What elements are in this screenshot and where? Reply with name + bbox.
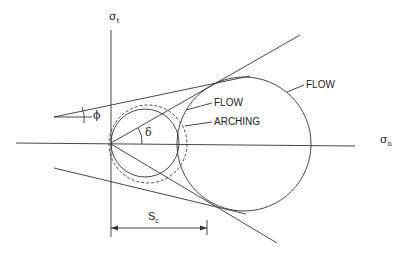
sc-left-arrowhead xyxy=(111,226,118,231)
flow-small-label: FLOW xyxy=(214,98,243,108)
sc-label: Sc xyxy=(148,211,159,222)
sigma-n-label: σn xyxy=(380,134,392,145)
sigma-n-subscript: n xyxy=(388,140,393,148)
arching-leader xyxy=(185,122,212,126)
mohr-diagram xyxy=(0,0,402,253)
sc-subscript: c xyxy=(155,217,159,224)
phi-angle-arc xyxy=(82,107,84,123)
sigma-t-symbol: σ xyxy=(109,10,117,23)
sigma-t-subscript: t xyxy=(117,17,120,25)
sc-right-arrowhead xyxy=(200,226,207,231)
flow-large-leader xyxy=(287,85,304,92)
sigma-n-symbol: σ xyxy=(380,133,388,146)
sigma-n-axis xyxy=(16,143,355,146)
flow-large-circle xyxy=(177,77,311,211)
delta-label: δ xyxy=(145,127,152,138)
flow-large-label: FLOW xyxy=(306,80,335,90)
delta-angle-arc xyxy=(138,128,142,144)
arching-label: ARCHING xyxy=(214,117,260,127)
flow-small-circle xyxy=(111,109,179,177)
phi-label: ϕ xyxy=(93,110,101,121)
sigma-t-label: σt xyxy=(109,11,119,22)
